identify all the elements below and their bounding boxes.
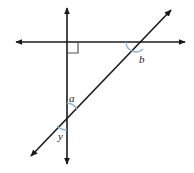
angle-label-y: y <box>58 131 63 142</box>
geometry-diagram-canvas <box>0 0 194 173</box>
diagonal-line <box>31 10 171 156</box>
angle-label-a: a <box>69 93 75 104</box>
right-angle-marker <box>67 42 78 53</box>
geometry-figure: a b y <box>0 0 194 173</box>
angle-label-b: b <box>139 54 145 65</box>
